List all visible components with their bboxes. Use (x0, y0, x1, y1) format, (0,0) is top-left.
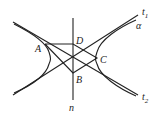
label-t1: t1 (142, 6, 148, 20)
hyperbola-diagram: A B C D n α t1 t2 (0, 0, 158, 117)
label-d: D (75, 35, 84, 46)
label-alpha: α (136, 20, 142, 31)
label-c: C (100, 54, 107, 65)
label-b: B (76, 74, 82, 85)
label-t2: t2 (142, 91, 149, 105)
label-a: A (34, 43, 42, 54)
label-n: n (69, 102, 74, 113)
